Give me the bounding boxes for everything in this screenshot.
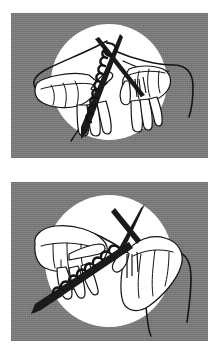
panel-1-artwork — [11, 13, 208, 158]
panel-2-artwork — [11, 182, 208, 341]
illustration-panel-2 — [11, 182, 208, 341]
illustration-panel-1 — [11, 13, 208, 158]
illustration-sheet — [0, 0, 220, 353]
